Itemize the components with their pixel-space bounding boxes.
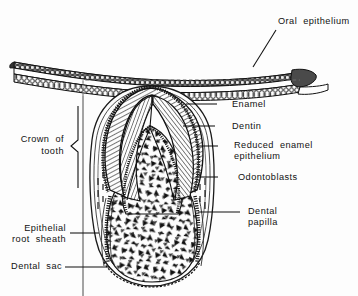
label-crown-of-tooth-line1: Crown of xyxy=(0,134,64,145)
label-dental-papilla-line1: Dental xyxy=(248,206,277,217)
label-dental-papilla-line2: papilla xyxy=(248,217,278,228)
label-dental-sac: Dental sac xyxy=(0,261,62,272)
label-epithelial-root-sheath-line2: root sheath xyxy=(0,234,66,245)
crown-of-tooth-brace xyxy=(71,106,78,188)
label-odontoblasts: Odontoblasts xyxy=(238,172,298,183)
label-oral-epithelium: Oral epithelium xyxy=(278,16,350,27)
label-epithelial-root-sheath-line1: Epithelial xyxy=(0,223,66,234)
label-reduced-enamel-epithelium-line1: Reduced enamel xyxy=(234,140,313,151)
label-reduced-enamel-epithelium-line2: epithelium xyxy=(234,151,280,162)
label-enamel: Enamel xyxy=(232,99,266,110)
label-crown-of-tooth-line2: tooth xyxy=(0,146,64,157)
label-dentin: Dentin xyxy=(232,121,261,132)
tooth-germ-figure: Oral epithelium Enamel Dentin Reduced en… xyxy=(0,0,358,296)
